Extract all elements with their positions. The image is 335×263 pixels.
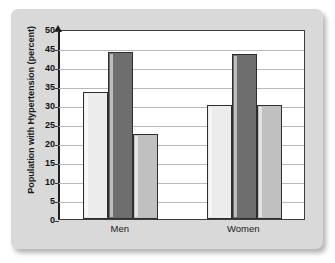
y-axis-tick xyxy=(55,88,59,89)
x-axis-label-men: Men xyxy=(111,223,129,234)
bar-group-women xyxy=(207,31,282,219)
chart-panel: Population with Hypertension (percent) 0… xyxy=(11,9,323,249)
y-axis-tick-label: 35 xyxy=(35,82,55,92)
bar-men-series-2 xyxy=(108,52,133,219)
bar-highlight xyxy=(110,54,113,217)
bar-men-series-3 xyxy=(133,134,158,220)
x-axis-tick-labels: MenWomen xyxy=(58,223,305,239)
y-axis-tick xyxy=(55,164,59,165)
y-axis-tick-label: 50 xyxy=(35,25,55,35)
y-axis-tick-label: 10 xyxy=(35,177,55,187)
y-axis-tick-label: 40 xyxy=(35,63,55,73)
y-axis-tick xyxy=(55,145,59,146)
y-axis-tick-labels: 05101520253035404550 xyxy=(35,30,55,220)
y-axis-tick-label: 5 xyxy=(35,196,55,206)
y-axis-tick-label: 15 xyxy=(35,158,55,168)
bar-group-men xyxy=(83,31,158,219)
bar-women-series-1 xyxy=(207,105,232,219)
y-axis-tick xyxy=(55,202,59,203)
y-axis-tick xyxy=(55,221,59,222)
bar-women-series-2 xyxy=(232,54,257,219)
bar-highlight xyxy=(259,107,262,217)
y-axis-tick xyxy=(55,31,59,32)
bars-layer xyxy=(59,31,304,219)
figure-root: Population with Hypertension (percent) 0… xyxy=(0,0,335,263)
y-axis-tick-label: 30 xyxy=(35,101,55,111)
bar-highlight xyxy=(234,56,237,217)
bar-highlight xyxy=(209,107,212,217)
y-axis-tick-label: 0 xyxy=(35,215,55,225)
x-axis-label-women: Women xyxy=(227,223,260,234)
bar-women-series-3 xyxy=(257,105,282,219)
y-axis-tick xyxy=(55,107,59,108)
y-axis-tick xyxy=(55,50,59,51)
y-axis-tick xyxy=(55,126,59,127)
y-axis-tick xyxy=(55,183,59,184)
bar-men-series-1 xyxy=(83,92,108,219)
y-axis-tick-label: 20 xyxy=(35,139,55,149)
bar-highlight xyxy=(85,94,88,217)
bar-highlight xyxy=(135,136,138,218)
plot-area xyxy=(58,30,305,220)
y-axis-tick xyxy=(55,69,59,70)
y-axis-tick-label: 45 xyxy=(35,44,55,54)
y-axis-tick-label: 25 xyxy=(35,120,55,130)
